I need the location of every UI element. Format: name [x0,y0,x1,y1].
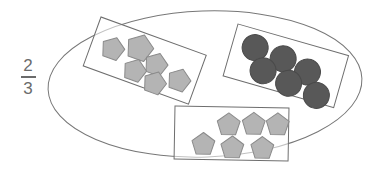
fraction-numerator: 2 [14,57,42,75]
fraction-set-diagram [0,0,387,170]
diagram-canvas: 2 3 [0,0,387,170]
fraction-denominator: 3 [14,80,42,97]
group-pentagons-bottom [174,106,289,161]
group-pentagons-top-left [83,17,207,106]
group-circles-right [221,24,348,113]
fraction-label: 2 3 [14,57,42,97]
fraction-bar [21,76,36,78]
